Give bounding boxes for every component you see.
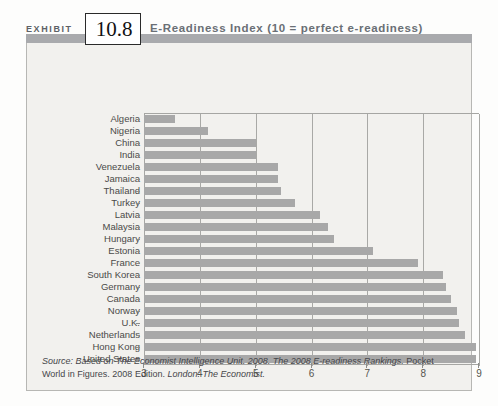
y-tick (136, 275, 140, 276)
exhibit-label: EXHIBIT (26, 24, 73, 34)
y-tick (136, 155, 140, 156)
y-tick (136, 299, 140, 300)
exhibit-title: E-Readiness Index (10 = perfect e-readin… (150, 22, 423, 34)
y-label-hong-kong: Hong Kong (92, 341, 140, 352)
bar-norway (144, 307, 457, 315)
bar-algeria (144, 115, 175, 123)
x-tick-9 (478, 363, 479, 368)
bar-row (144, 139, 479, 147)
y-tick (136, 239, 140, 240)
y-tick (136, 251, 140, 252)
source-italic-two: London: The Economist. (167, 369, 265, 379)
y-label-thailand: Thailand (104, 185, 140, 196)
y-tick (136, 323, 140, 324)
y-tick (136, 131, 140, 132)
gridline-9 (479, 114, 480, 366)
y-label-venezuela: Venezuela (96, 161, 140, 172)
bar-series (144, 113, 479, 365)
bar-estonia (144, 247, 373, 255)
source-note: Source: Based on The Economist Intellige… (42, 355, 454, 381)
exhibit-number-box: 10.8 (85, 13, 141, 45)
bar-netherlands (144, 331, 465, 339)
y-label-canada: Canada (107, 293, 140, 304)
y-label-netherlands: Netherlands (89, 329, 140, 340)
bar-hungary (144, 235, 334, 243)
bar-jamaica (144, 175, 278, 183)
bar-india (144, 151, 256, 159)
bar-thailand (144, 187, 281, 195)
y-label-south-korea: South Korea (87, 269, 140, 280)
bar-row (144, 319, 479, 327)
bar-row (144, 175, 479, 183)
bar-china (144, 139, 256, 147)
y-tick (136, 203, 140, 204)
y-tick (136, 167, 140, 168)
source-italic-one: Based on The Economist Intelligence Unit… (76, 356, 404, 366)
bar-row (144, 163, 479, 171)
bar-malaysia (144, 223, 328, 231)
bar-venezuela (144, 163, 278, 171)
bar-row (144, 127, 479, 135)
y-tick (136, 347, 140, 348)
bar-turkey (144, 199, 295, 207)
bar-nigeria (144, 127, 208, 135)
bar-row (144, 295, 479, 303)
y-axis-labels: AlgeriaNigeriaChinaIndiaVenezuelaJamaica… (27, 113, 140, 365)
y-tick (136, 119, 140, 120)
y-tick (136, 263, 140, 264)
y-tick (136, 287, 140, 288)
bar-row (144, 259, 479, 267)
bar-france (144, 259, 418, 267)
bar-row (144, 235, 479, 243)
y-tick (136, 215, 140, 216)
bar-row (144, 271, 479, 279)
bar-row (144, 151, 479, 159)
x-label-9: 9 (469, 368, 489, 379)
bar-u-k- (144, 319, 459, 327)
y-label-germany: Germany (101, 281, 140, 292)
y-tick (136, 143, 140, 144)
bar-row (144, 223, 479, 231)
bar-row (144, 331, 479, 339)
bar-germany (144, 283, 446, 291)
exhibit-panel: AlgeriaNigeriaChinaIndiaVenezuelaJamaica… (26, 43, 472, 391)
bar-row (144, 199, 479, 207)
bar-hong-kong (144, 343, 476, 351)
bar-south-korea (144, 271, 443, 279)
bar-row (144, 211, 479, 219)
source-prefix: Source: (42, 356, 73, 366)
y-tick (136, 191, 140, 192)
bar-canada (144, 295, 451, 303)
bar-latvia (144, 211, 320, 219)
y-tick (136, 335, 140, 336)
y-label-hungary: Hungary (104, 233, 140, 244)
exhibit-number: 10.8 (86, 14, 142, 46)
bar-row (144, 115, 479, 123)
y-label-malaysia: Malaysia (103, 221, 141, 232)
bar-row (144, 283, 479, 291)
y-tick (136, 227, 140, 228)
bar-row (144, 247, 479, 255)
y-label-jamaica: Jamaica (105, 173, 140, 184)
bar-row (144, 343, 479, 351)
y-tick (136, 179, 140, 180)
bar-row (144, 307, 479, 315)
bar-row (144, 187, 479, 195)
y-tick (136, 311, 140, 312)
exhibit-figure: EXHIBIT 10.8 E-Readiness Index (10 = per… (0, 0, 498, 406)
